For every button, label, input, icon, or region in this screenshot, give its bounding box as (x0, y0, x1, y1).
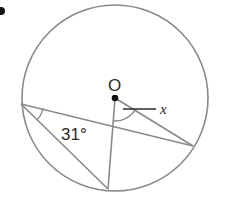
problem-marker (0, 7, 5, 15)
chord-left-right (21, 104, 193, 146)
radius-bottom (108, 98, 115, 189)
unknown-angle-label: x (159, 101, 167, 117)
radius-right (115, 98, 193, 146)
inscribed-angle-arc (37, 108, 43, 120)
central-angle-arc (114, 110, 135, 121)
center-point (112, 95, 119, 102)
circle-diagram: O 31° x (0, 0, 229, 199)
center-label: O (108, 76, 121, 95)
inscribed-angle-label: 31° (61, 125, 87, 144)
